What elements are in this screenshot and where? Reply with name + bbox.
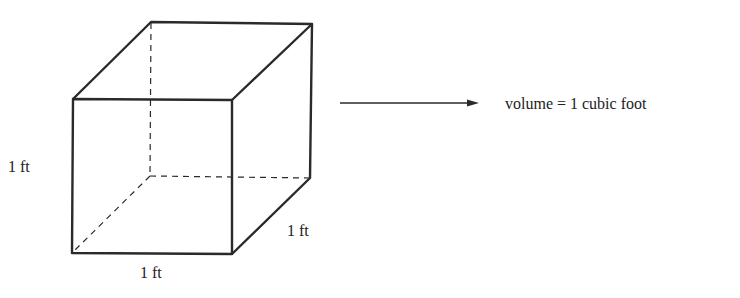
height-label: 1 ft [8, 158, 30, 175]
top-face [73, 22, 312, 100]
hidden-edges [73, 23, 310, 252]
depth-label: 1 ft [287, 222, 309, 239]
width-label: 1 ft [140, 264, 162, 281]
cube-diagram: 1 ft 1 ft 1 ft volume = 1 cubic foot [0, 0, 740, 298]
right-face [232, 24, 312, 254]
arrow [340, 100, 479, 107]
cube [72, 22, 312, 254]
volume-result-text: volume = 1 cubic foot [505, 95, 647, 112]
